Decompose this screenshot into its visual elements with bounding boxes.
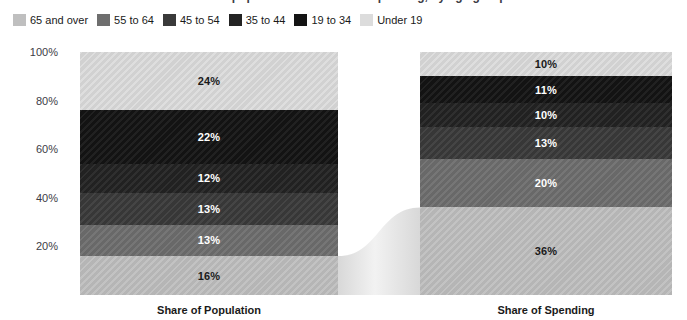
bar-segment-value-label: 20% — [535, 177, 558, 189]
ribbon-path — [338, 208, 420, 295]
bar-segment[interactable]: 11% — [420, 76, 672, 103]
bar-segment-value-label: 16% — [198, 270, 221, 282]
bar-segment-value-label: 13% — [198, 234, 221, 246]
y-axis-tick-label: 20% — [12, 240, 58, 252]
bar-segment[interactable]: 20% — [420, 159, 672, 208]
bar-segment-value-label: 12% — [198, 172, 221, 184]
bar-segment-value-label: 10% — [535, 109, 558, 121]
bar-segment[interactable]: 36% — [420, 207, 672, 294]
bar-segment[interactable]: 13% — [420, 127, 672, 159]
y-axis-tick-label: 60% — [12, 143, 58, 155]
x-axis-category-label: Share of Spending — [436, 304, 656, 316]
y-axis-tick-label: 80% — [12, 95, 58, 107]
stacked-bar[interactable]: 24%22%12%13%13%16% — [80, 52, 338, 295]
bar-segment-value-label: 22% — [198, 131, 221, 143]
y-axis: 100%80%60%40%20% — [0, 0, 58, 320]
bar-segment[interactable]: 10% — [420, 103, 672, 127]
y-axis-tick-label: 40% — [12, 192, 58, 204]
bar-segment[interactable]: 16% — [80, 256, 338, 295]
bar-segment[interactable]: 10% — [420, 52, 672, 76]
bar-segment-value-label: 13% — [198, 203, 221, 215]
bar-segment-value-label: 13% — [535, 137, 558, 149]
bar-segment[interactable]: 22% — [80, 110, 338, 163]
bar-segment-value-label: 10% — [535, 58, 558, 70]
bar-segment[interactable]: 24% — [80, 52, 338, 110]
y-axis-tick-label: 100% — [12, 46, 58, 58]
bar-segment-value-label: 36% — [535, 245, 558, 257]
bar-segment-value-label: 24% — [198, 75, 221, 87]
bar-segment[interactable]: 13% — [80, 193, 338, 225]
x-axis-category-label: Share of Population — [99, 304, 319, 316]
bar-segment-value-label: 11% — [535, 84, 557, 96]
chart-plot-area: 100%80%60%40%20% 24%22%12%13%13%16%10%11… — [0, 0, 687, 320]
bar-segment[interactable]: 13% — [80, 225, 338, 257]
bar-segment[interactable]: 12% — [80, 164, 338, 193]
stacked-bar[interactable]: 10%11%10%13%20%36% — [420, 52, 672, 295]
